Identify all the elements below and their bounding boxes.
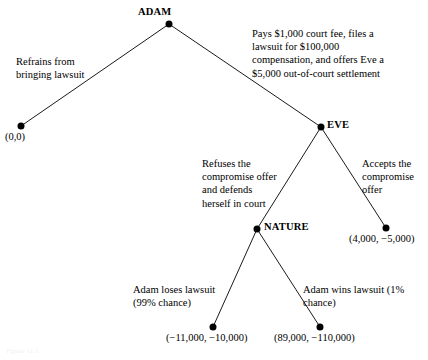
- terminal-node-refrain: [18, 123, 25, 130]
- edge-label-adam-sues: Pays $1,000 court fee, files a lawsuit f…: [252, 27, 424, 80]
- terminal-node-accept: [383, 225, 390, 232]
- edge-nature-wins: [257, 229, 320, 327]
- terminal-node-win: [317, 324, 324, 331]
- edge-nature-loses: [213, 229, 257, 327]
- node-adam: [166, 21, 173, 28]
- terminal-node-lose: [210, 324, 217, 331]
- edge-label-adam-refrains: Refrains from bringing lawsuit: [16, 55, 85, 81]
- payoff-accept: (4,000, −5,000): [349, 233, 414, 244]
- node-label-nature: NATURE: [264, 221, 309, 232]
- game-tree-diagram: ADAM EVE NATURE (0,0) (4,000, −5,000) (−…: [0, 0, 428, 360]
- node-label-adam: ADAM: [138, 6, 171, 17]
- payoff-win: (89,000, −110,000): [274, 332, 355, 343]
- edge-label-eve-accepts: Accepts the compromise offer: [362, 157, 414, 197]
- edge-label-eve-refuses: Refuses the compromise offer and defends…: [202, 157, 277, 210]
- node-label-eve: EVE: [327, 119, 349, 130]
- payoff-refrain: (0,0): [5, 131, 25, 142]
- payoff-lose: (−11,000, −10,000): [166, 332, 247, 343]
- figure-caption: Figure 12.1: [6, 347, 38, 355]
- node-eve: [318, 124, 325, 131]
- edge-label-nature-wins: Adam wins lawsuit (1% chance): [303, 283, 425, 309]
- node-nature: [254, 226, 261, 233]
- edge-label-nature-loses: Adam loses lawsuit (99% chance): [133, 283, 215, 309]
